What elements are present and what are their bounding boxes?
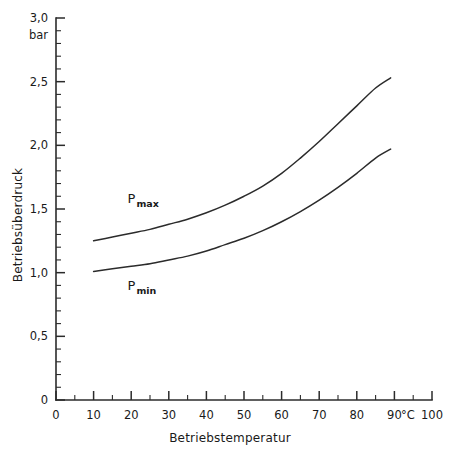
axes-group bbox=[56, 18, 432, 400]
x-axis-title: Betriebstemperatur bbox=[169, 431, 291, 445]
x-tick-label: 90 bbox=[387, 408, 402, 422]
x-tick-label: 50 bbox=[237, 408, 252, 422]
x-tick-label: 80 bbox=[349, 408, 364, 422]
y-axis-unit-label: bar bbox=[29, 28, 48, 42]
y-tick-label: 1,5 bbox=[30, 202, 48, 216]
curves-group bbox=[94, 78, 391, 272]
y-axis-tick-labels: 00,51,01,52,02,53,0 bbox=[30, 11, 48, 407]
x-tick-label: 20 bbox=[124, 408, 139, 422]
curve-p-min bbox=[94, 149, 391, 271]
x-tick-label: 10 bbox=[86, 408, 101, 422]
pressure-temperature-chart: 00,51,01,52,02,53,0 01020304050607080901… bbox=[0, 0, 454, 454]
x-tick-label: 100 bbox=[421, 408, 443, 422]
pmin-annotation: Pmin bbox=[127, 278, 156, 296]
y-axis-ticks bbox=[56, 18, 65, 400]
x-axis-tick-labels: 0102030405060708090100 bbox=[52, 408, 443, 422]
y-tick-label: 3,0 bbox=[30, 11, 48, 25]
pmin-annotation-subscript: min bbox=[136, 285, 156, 296]
x-tick-label: 30 bbox=[161, 408, 176, 422]
chart-canvas: 00,51,01,52,02,53,0 01020304050607080901… bbox=[0, 0, 454, 454]
x-tick-label: 40 bbox=[199, 408, 214, 422]
y-tick-label: 2,5 bbox=[30, 75, 48, 89]
pmax-annotation-subscript: max bbox=[136, 198, 158, 209]
pmax-annotation: Pmax bbox=[127, 191, 158, 209]
y-tick-label: 2,0 bbox=[30, 138, 48, 152]
x-tick-label: 70 bbox=[312, 408, 327, 422]
y-axis-title: Betriebsüberdruck bbox=[11, 168, 25, 282]
y-tick-label: 0,5 bbox=[30, 329, 48, 343]
x-axis-ticks bbox=[56, 391, 432, 400]
y-tick-label: 1,0 bbox=[30, 266, 48, 280]
x-axis-unit-label: °C bbox=[401, 408, 415, 422]
x-tick-label: 60 bbox=[274, 408, 289, 422]
pmax-annotation-base: P bbox=[127, 191, 135, 206]
curve-annotations-group: PmaxPmin bbox=[127, 191, 158, 297]
pmin-annotation-base: P bbox=[127, 278, 135, 293]
x-tick-label: 0 bbox=[52, 408, 59, 422]
curve-p-max bbox=[94, 78, 391, 241]
y-tick-label: 0 bbox=[41, 393, 48, 407]
